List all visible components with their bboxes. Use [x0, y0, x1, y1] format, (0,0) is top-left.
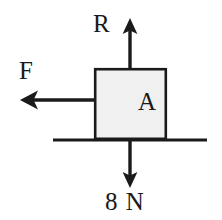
normal-force-arrow: [123, 18, 138, 70]
weight-force-arrow: [123, 137, 138, 188]
free-body-diagram: R F A 8 N: [0, 0, 222, 220]
weight-force-label: 8 N: [105, 189, 145, 214]
applied-force-arrow: [20, 91, 96, 110]
normal-force-label: R: [93, 11, 110, 36]
block-a-label: A: [138, 89, 156, 114]
diagram-canvas: [0, 0, 222, 220]
applied-force-label: F: [19, 58, 33, 83]
